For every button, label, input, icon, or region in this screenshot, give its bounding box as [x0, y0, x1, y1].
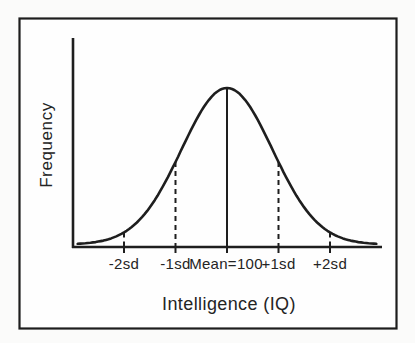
tick-label: -1sd — [160, 255, 190, 272]
tick-label: +2sd — [313, 255, 347, 272]
iq-distribution-figure: -2sd-1sdMean=100+1sd+2sd Intelligence (I… — [0, 0, 415, 343]
figure-border — [20, 19, 397, 329]
tick-label: +1sd — [261, 255, 295, 272]
tick-label: Mean=100 — [189, 255, 263, 272]
y-axis-label: Frequency — [37, 102, 56, 188]
tick-label: -2sd — [109, 255, 139, 272]
bell-curve-chart: -2sd-1sdMean=100+1sd+2sd Intelligence (I… — [0, 0, 415, 343]
x-axis-label: Intelligence (IQ) — [162, 294, 296, 314]
